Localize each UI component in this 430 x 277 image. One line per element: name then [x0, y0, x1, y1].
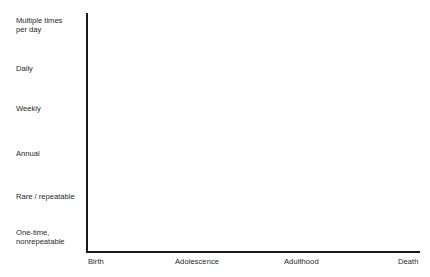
x-axis-tick-label-death: Death — [398, 257, 419, 266]
y-axis-tick-label-multiple-times-per-day: Multiple times per day — [16, 16, 62, 35]
y-axis-tick-label-annual: Annual — [16, 149, 40, 158]
y-axis-tick-label-rare-repeatable: Rare / repeatable — [16, 192, 75, 201]
plot-area — [88, 13, 420, 251]
chart-figure: Multiple times per day Daily Weekly Annu… — [0, 0, 430, 277]
x-axis-tick-label-adolescence: Adolescence — [175, 257, 219, 266]
y-axis-tick-label-weekly: Weekly — [16, 104, 41, 113]
x-axis-tick-label-adulthood: Adulthood — [284, 257, 319, 266]
y-axis-line — [86, 13, 88, 253]
y-axis-tick-label-one-time-nonrepeatable: One-time, nonrepeatable — [16, 228, 65, 247]
y-axis-tick-label-daily: Daily — [16, 64, 33, 73]
x-axis-line — [86, 251, 420, 253]
y-axis-tick-labels: Multiple times per day Daily Weekly Annu… — [0, 0, 82, 277]
x-axis-tick-label-birth: Birth — [88, 257, 104, 266]
